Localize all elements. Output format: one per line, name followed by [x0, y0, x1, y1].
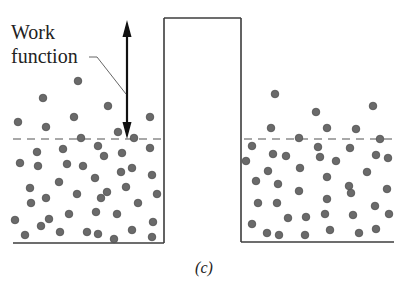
- electron-dot: [295, 134, 303, 142]
- electron-dot: [316, 153, 324, 161]
- electron-dot: [122, 183, 130, 191]
- electron-dot: [77, 134, 85, 142]
- electron-dot: [372, 151, 380, 159]
- electron-dot: [14, 118, 22, 126]
- electron-dot: [323, 124, 331, 132]
- electron-dot: [275, 231, 283, 239]
- electron-dot: [114, 128, 122, 136]
- electron-dot: [314, 143, 322, 151]
- electron-dot: [92, 208, 100, 216]
- electron-dot: [34, 162, 42, 170]
- work-function-label-line1: Work: [11, 21, 55, 43]
- electron-dot: [26, 184, 34, 192]
- electron-dot: [149, 218, 157, 226]
- electron-dot: [63, 160, 71, 168]
- electron-dot: [70, 113, 78, 121]
- work-function-double-arrow-icon: [123, 20, 132, 139]
- electron-dot: [55, 178, 63, 186]
- electron-dot: [134, 199, 142, 207]
- electron-dot: [33, 148, 41, 156]
- electron-dot: [130, 134, 138, 142]
- work-function-label-line2: function: [11, 45, 78, 67]
- electron-dot: [91, 174, 99, 182]
- electron-dot: [347, 189, 355, 197]
- electron-dot: [104, 102, 112, 110]
- electron-dot: [248, 142, 256, 150]
- electron-dot: [346, 144, 354, 152]
- electron-dot: [42, 194, 50, 202]
- electron-dot: [384, 154, 392, 162]
- electron-dot: [385, 210, 393, 218]
- electron-dot: [296, 164, 304, 172]
- electron-dot: [323, 173, 331, 181]
- electron-dot: [371, 202, 379, 210]
- electron-dot: [369, 102, 377, 110]
- electron-dot: [146, 113, 154, 121]
- electron-dot: [103, 188, 111, 196]
- electron-dot: [128, 164, 136, 172]
- electron-dot: [271, 90, 279, 98]
- electron-dot: [37, 222, 45, 230]
- electron-dot: [274, 180, 282, 188]
- electron-dot: [332, 157, 340, 165]
- figure-caption: (c): [195, 259, 213, 277]
- electron-dot: [94, 230, 102, 238]
- electron-dot: [345, 182, 353, 190]
- electron-dot: [73, 190, 81, 198]
- electron-dot: [352, 125, 360, 133]
- electron-dot: [83, 228, 91, 236]
- electron-dot: [301, 231, 309, 239]
- electron-dot: [153, 190, 161, 198]
- electron-dot: [267, 124, 275, 132]
- electron-dot: [42, 123, 50, 131]
- electron-dot: [263, 229, 271, 237]
- electron-dot: [326, 226, 334, 234]
- electron-dot: [100, 152, 108, 160]
- electron-dot: [21, 231, 29, 239]
- left-electron-dots: [11, 77, 161, 243]
- electron-dot: [248, 220, 256, 228]
- electron-dot: [148, 233, 156, 241]
- electron-dot: [242, 157, 250, 165]
- electron-dot: [16, 159, 24, 167]
- electron-dot: [56, 228, 64, 236]
- arrow-up-head-icon: [123, 20, 132, 37]
- electron-dot: [252, 177, 260, 185]
- right-electron-dots: [242, 90, 393, 239]
- electron-dot: [254, 199, 262, 207]
- electron-dot: [372, 225, 380, 233]
- electron-dot: [264, 167, 272, 175]
- electron-dot: [376, 135, 384, 143]
- electron-dot: [302, 213, 310, 221]
- electron-dot: [323, 195, 331, 203]
- electron-dot: [97, 194, 105, 202]
- electron-dot: [118, 149, 126, 157]
- electron-dot: [27, 199, 35, 207]
- electron-dot: [74, 77, 82, 85]
- electron-dot: [113, 210, 121, 218]
- electron-dot: [349, 211, 357, 219]
- electron-dot: [11, 216, 19, 224]
- electron-dot: [321, 210, 329, 218]
- label-leader-line: [89, 57, 126, 94]
- electron-dot: [39, 94, 47, 102]
- electron-dot: [146, 144, 154, 152]
- electron-dot: [282, 152, 290, 160]
- electron-dot: [45, 215, 53, 223]
- electron-dot: [79, 162, 87, 170]
- electron-dot: [284, 214, 292, 222]
- electron-dot: [94, 142, 102, 150]
- electron-dot: [110, 235, 118, 243]
- electron-dot: [363, 168, 371, 176]
- electron-dot: [128, 226, 136, 234]
- electron-dot: [269, 150, 277, 158]
- electron-dot: [148, 171, 156, 179]
- electron-dot: [295, 187, 303, 195]
- electron-dot: [273, 199, 281, 207]
- electron-dot: [65, 210, 73, 218]
- electron-dot: [312, 108, 320, 116]
- electron-dot: [59, 145, 67, 153]
- electron-dot: [383, 185, 391, 193]
- work-function-diagram: Work function (c): [0, 0, 394, 283]
- electron-dot: [355, 229, 363, 237]
